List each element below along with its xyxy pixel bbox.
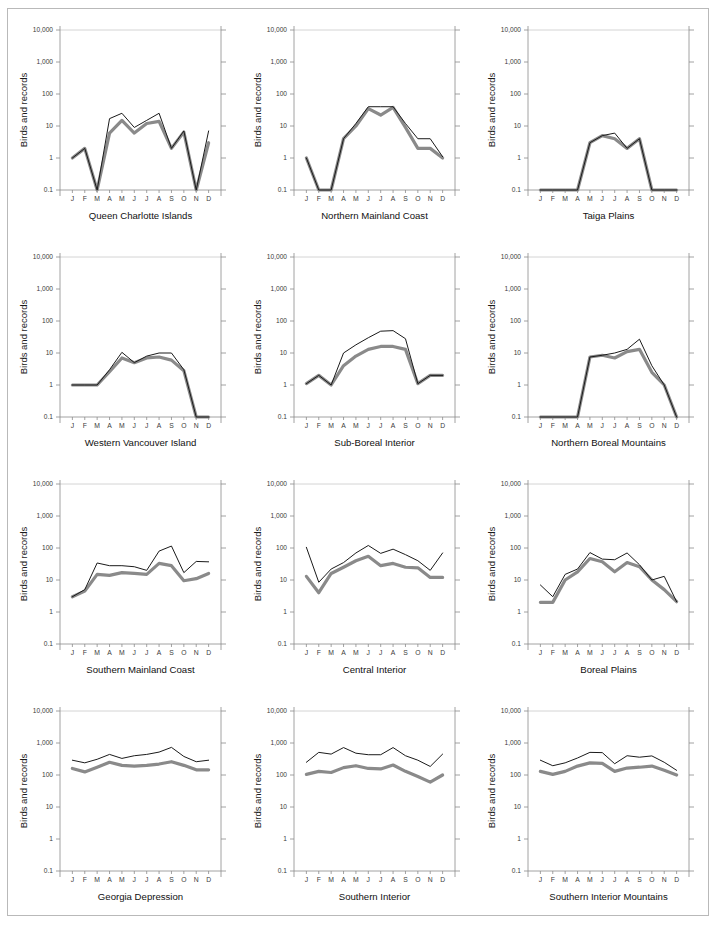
x-tick-label: N <box>428 195 433 202</box>
panel-title: Southern Interior Mountains <box>549 891 668 902</box>
x-tick-label: D <box>440 422 445 429</box>
y-tick-label: 100 <box>276 771 287 778</box>
series-line-birds <box>306 346 442 385</box>
y-tick-label: 10,000 <box>501 253 522 260</box>
y-tick-label: 10 <box>514 349 522 356</box>
x-tick-label: M <box>328 649 334 656</box>
y-tick-label: 1,000 <box>270 512 287 519</box>
panel-title: Northern Boreal Mountains <box>551 437 666 448</box>
series-line-records <box>72 352 208 417</box>
x-tick-label: A <box>575 876 580 883</box>
x-tick-label: J <box>539 195 542 202</box>
x-tick-label: D <box>440 876 445 883</box>
y-tick-label: 100 <box>510 771 521 778</box>
y-tick-label: 10 <box>46 122 54 129</box>
x-tick-label: N <box>662 649 667 656</box>
y-tick-label: 10,000 <box>267 253 288 260</box>
panel-plot: 10,0001,0001001010.1JFMAMJJASONDBirds an… <box>241 235 475 462</box>
y-tick-label: 0.1 <box>44 186 53 193</box>
y-axis-title: Birds and records <box>18 300 29 375</box>
chart-panel: 10,0001,0001001010.1JFMAMJJASONDBirds an… <box>241 235 475 462</box>
x-tick-label: N <box>194 195 199 202</box>
x-tick-label: D <box>206 876 211 883</box>
x-tick-label: J <box>613 195 616 202</box>
x-tick-label: J <box>145 649 148 656</box>
x-tick-label: O <box>181 422 186 429</box>
x-tick-label: J <box>305 876 308 883</box>
y-tick-label: 100 <box>42 544 53 551</box>
x-tick-label: D <box>206 422 211 429</box>
y-tick-label: 1 <box>283 835 287 842</box>
x-tick-label: A <box>157 649 162 656</box>
x-tick-label: D <box>674 649 679 656</box>
chart-panel: 10,0001,0001001010.1JFMAMJJASONDBirds an… <box>475 689 709 916</box>
y-tick-label: 10 <box>514 576 522 583</box>
panel-plot: 10,0001,0001001010.1JFMAMJJASONDBirds an… <box>475 689 709 916</box>
y-tick-label: 1,000 <box>36 739 53 746</box>
series-line-records <box>72 747 208 762</box>
x-tick-label: S <box>169 876 174 883</box>
x-tick-label: J <box>367 649 370 656</box>
x-tick-label: S <box>403 422 408 429</box>
panel-plot: 10,0001,0001001010.1JFMAMJJASONDBirds an… <box>7 462 241 689</box>
y-axis-title: Birds and records <box>18 754 29 829</box>
y-tick-label: 1 <box>517 835 521 842</box>
x-tick-label: O <box>649 422 654 429</box>
x-tick-label: S <box>637 876 642 883</box>
x-tick-label: J <box>367 195 370 202</box>
y-tick-label: 1 <box>517 381 521 388</box>
panel-title: Southern Interior <box>339 891 411 902</box>
x-tick-label: J <box>613 649 616 656</box>
x-tick-label: J <box>133 649 136 656</box>
chart-panel: 10,0001,0001001010.1JFMAMJJASONDBirds an… <box>241 462 475 689</box>
y-tick-label: 100 <box>510 544 521 551</box>
x-tick-label: M <box>94 649 100 656</box>
x-tick-label: M <box>587 195 593 202</box>
y-tick-label: 1,000 <box>36 285 53 292</box>
x-tick-label: A <box>625 195 630 202</box>
x-tick-label: J <box>379 422 382 429</box>
y-tick-label: 1,000 <box>270 739 287 746</box>
y-tick-label: 1 <box>517 608 521 615</box>
x-tick-label: J <box>305 422 308 429</box>
x-tick-label: A <box>575 649 580 656</box>
y-axis-title: Birds and records <box>486 300 497 375</box>
series-line-birds <box>72 762 208 772</box>
y-tick-label: 10,000 <box>501 707 522 714</box>
y-axis-title: Birds and records <box>252 754 263 829</box>
x-tick-label: A <box>157 195 162 202</box>
x-tick-label: N <box>194 422 199 429</box>
y-tick-label: 10 <box>280 576 288 583</box>
series-line-records <box>72 546 208 597</box>
x-tick-label: N <box>428 876 433 883</box>
x-tick-label: S <box>169 422 174 429</box>
panel-plot: 10,0001,0001001010.1JFMAMJJASONDBirds an… <box>241 462 475 689</box>
y-axis-title: Birds and records <box>252 73 263 148</box>
y-tick-label: 1 <box>283 154 287 161</box>
panel-title: Queen Charlotte Islands <box>89 210 193 221</box>
y-tick-label: 10 <box>46 576 54 583</box>
chart-panel: 10,0001,0001001010.1JFMAMJJASONDBirds an… <box>475 8 709 235</box>
x-tick-label: J <box>601 649 604 656</box>
x-tick-label: J <box>379 876 382 883</box>
x-tick-label: S <box>637 195 642 202</box>
x-tick-label: J <box>613 876 616 883</box>
y-tick-label: 1,000 <box>270 58 287 65</box>
panel-title: Taiga Plains <box>583 210 635 221</box>
x-tick-label: J <box>601 422 604 429</box>
x-tick-label: M <box>562 876 568 883</box>
x-tick-label: M <box>94 876 100 883</box>
chart-panel: 10,0001,0001001010.1JFMAMJJASONDBirds an… <box>241 8 475 235</box>
x-tick-label: D <box>674 195 679 202</box>
x-tick-label: M <box>353 876 359 883</box>
y-tick-label: 1,000 <box>504 512 521 519</box>
y-axis-title: Birds and records <box>18 73 29 148</box>
y-tick-label: 1,000 <box>36 58 53 65</box>
x-tick-label: M <box>119 422 125 429</box>
series-line-records <box>306 545 442 582</box>
x-tick-label: O <box>181 195 186 202</box>
panel-plot: 10,0001,0001001010.1JFMAMJJASONDBirds an… <box>475 462 709 689</box>
x-tick-label: D <box>674 422 679 429</box>
x-tick-label: A <box>391 876 396 883</box>
x-tick-label: O <box>649 876 654 883</box>
